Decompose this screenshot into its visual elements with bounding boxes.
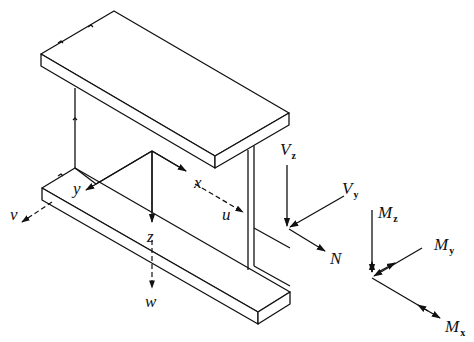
force-vy-sub: y [353,189,358,200]
moment-mz-sub: z [393,213,397,224]
moment-mx-base: M [445,317,459,336]
moment-mz-base: M [378,203,392,222]
force-vz-label: Vz [280,141,296,158]
moment-mz-label: Mz [378,204,398,221]
top-flange [41,11,289,168]
force-vy-label: Vy [342,180,358,197]
moment-arrows [372,210,440,318]
displacement-w-label: w [145,293,156,310]
moment-my-sub: y [449,245,454,256]
beam-drawing [0,0,474,342]
axis-z-label: z [147,228,154,245]
moment-mx-sub: x [460,327,465,338]
force-n-label: N [330,250,341,267]
axis-x-label: x [194,174,202,191]
force-vz-sub: z [291,150,295,161]
force-vz-base: V [280,140,290,159]
displacement-v-label: v [10,206,18,223]
axis-y-label: y [73,180,81,197]
moment-my-base: M [434,235,448,254]
moment-mx-label: Mx [445,318,465,335]
force-vy-base: V [342,179,352,198]
moment-my-label: My [434,236,454,253]
force-arrows [287,165,344,251]
displacement-u-label: u [222,206,231,223]
i-beam-diagram: x y z u v w Vz Vy N Mz My Mx [0,0,474,342]
